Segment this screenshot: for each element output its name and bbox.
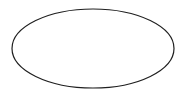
canvas-background xyxy=(0,0,186,98)
drawing-canvas xyxy=(0,0,186,98)
shape-canvas-svg xyxy=(0,0,186,98)
